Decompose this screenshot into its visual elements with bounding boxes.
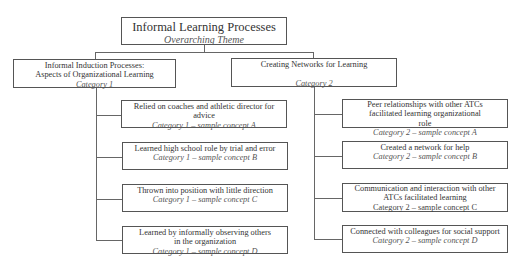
category-1-box: Informal Induction Processes: Aspects of… [13,59,176,88]
category-2-title-line1: Creating Networks for Learning [232,60,396,69]
concept-text: Relied on coaches and athletic director … [122,102,286,121]
concept-text: Communication and interaction with other… [353,184,497,203]
cat1-concept-a: Relied on coaches and athletic director … [121,100,287,128]
cat2-concept-a: Peer relationships with other ATCs facil… [342,99,508,128]
theme-title: Informal Learning Processes [122,21,286,34]
concept-label: Category 1 – sample concept C [123,195,287,204]
concept-text: Connected with colleagues for social sup… [343,227,507,236]
concept-text: Thrown into position with little directi… [123,186,287,195]
category-1-title-line2: Aspects of Organizational Learning [14,70,175,79]
concept-text: Created a network for help [343,143,507,152]
theme-subtitle: Overarching Theme [122,34,286,46]
cat2-branch-c [314,198,342,199]
category-1-label: Category 1 [14,80,175,89]
concept-text: Learned by informally observing others i… [137,228,273,247]
cat2-branch-b [314,156,342,157]
category-1-title-line1: Informal Induction Processes: [14,61,175,70]
cat2-concept-d: Connected with colleagues for social sup… [342,225,508,253]
concept-label: Category 2 – sample concept C [353,203,497,212]
concept-label: Category 1 – sample concept D [137,247,273,256]
cat1-branch-d [96,240,122,241]
cat1-branch-b [96,157,122,158]
connector-cat1-down [95,52,96,59]
cat1-concept-d: Learned by informally observing others i… [122,226,288,254]
cat1-spine [96,88,97,241]
cat1-concept-b: Learned high school role by trial and er… [122,142,288,170]
connector-horizontal [95,52,314,53]
concept-text: Peer relationships with other ATCs facil… [365,100,485,128]
category-2-label: Category 2 [232,79,396,88]
concept-label: Category 2 – sample concept D [343,236,507,245]
cat2-branch-a [314,114,342,115]
cat2-spine [314,87,315,240]
theme-box: Informal Learning Processes Overarching … [121,17,287,45]
category-2-box: Creating Networks for Learning Category … [231,58,397,87]
concept-text: Learned high school role by trial and er… [123,144,287,153]
concept-label: Category 1 – sample concept B [123,153,287,162]
cat1-branch-a [96,115,122,116]
category-2-title-line2 [232,69,396,78]
cat2-concept-c: Communication and interaction with other… [342,183,508,212]
cat2-branch-d [314,239,342,240]
concept-label: Category 2 – sample concept A [365,128,485,137]
cat1-concept-c: Thrown into position with little directi… [122,184,288,212]
concept-label: Category 1 – sample concept A [122,121,286,130]
concept-label: Category 2 – sample concept B [343,152,507,161]
cat1-branch-c [96,199,122,200]
cat2-concept-b: Created a network for help Category 2 – … [342,141,508,169]
